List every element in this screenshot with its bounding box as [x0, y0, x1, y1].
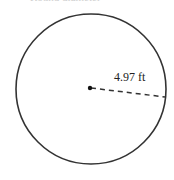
- radius-line: [91, 88, 165, 97]
- circle-diagram: [0, 0, 174, 180]
- center-dot: [88, 86, 92, 90]
- radius-label: 4.97 ft: [114, 70, 145, 85]
